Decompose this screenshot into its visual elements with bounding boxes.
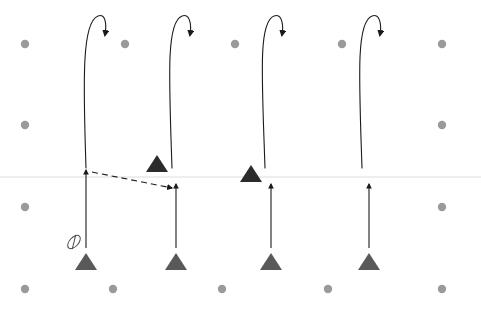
diagram-canvas [0, 0, 481, 310]
grid-dot-r1-c4 [338, 40, 346, 48]
grid-dot-r4-c4 [324, 285, 332, 293]
diagram-svg [0, 0, 481, 310]
grid-dot-r3-c2 [438, 203, 446, 211]
looping-trajectory-arrows [84, 15, 380, 168]
grid-dot-r4-c2 [109, 285, 117, 293]
grid-dot-r1-c1 [21, 40, 29, 48]
grid-dot-r4-c1 [21, 285, 29, 293]
gray-base-triangles [75, 253, 380, 270]
grid-dot-r1-c3 [231, 40, 239, 48]
gray-triangle-3 [260, 253, 282, 270]
gray-triangle-4 [358, 253, 380, 270]
grid-dot-r2-c1 [21, 121, 29, 129]
dashed-transfer-arrow [92, 172, 172, 188]
dark-triangle-1 [146, 155, 168, 172]
curved-arrow-1 [84, 15, 106, 168]
grid-dot-r3-c1 [21, 203, 29, 211]
dark-triangle-2 [240, 165, 262, 182]
grid-dot-r1-c5 [438, 40, 446, 48]
grid-dot-r2-c2 [438, 121, 446, 129]
curved-arrow-4 [360, 15, 381, 168]
grid-dot-r4-c5 [438, 285, 446, 293]
dashed-transfer-arrow [92, 172, 172, 188]
gray-triangle-1 [75, 253, 97, 270]
slashed-ellipse-wrapper [65, 233, 82, 251]
gray-triangle-2 [165, 253, 187, 270]
grid-dot-r1-c2 [121, 40, 129, 48]
grid-dot-r4-c3 [218, 285, 226, 293]
curved-arrow-2 [170, 15, 191, 168]
slashed-ellipse-icon [65, 233, 82, 251]
curved-arrow-3 [262, 15, 282, 168]
dark-marker-triangles [146, 155, 262, 182]
upward-motion-arrows [86, 170, 369, 248]
